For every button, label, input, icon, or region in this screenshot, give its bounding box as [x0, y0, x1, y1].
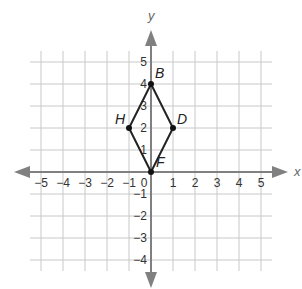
vertex-point-f — [148, 169, 154, 175]
vertex-point-b — [148, 81, 154, 87]
x-tick-labels: −5−4−3−2−1012345 — [34, 176, 265, 190]
y-axis-label: y — [147, 8, 156, 23]
vertex-label-d: D — [177, 111, 187, 127]
y-tick-label: −4 — [133, 253, 147, 267]
y-tick-label: 5 — [140, 55, 147, 69]
vertex-label-h: H — [115, 111, 126, 127]
x-tick-label: 3 — [214, 176, 221, 190]
y-tick-label: −2 — [133, 209, 147, 223]
vertex-label-b: B — [155, 65, 164, 81]
x-tick-label: −5 — [34, 176, 48, 190]
y-tick-label: −1 — [133, 187, 147, 201]
x-tick-label: −4 — [56, 176, 70, 190]
x-tick-label: 4 — [236, 176, 243, 190]
x-tick-label: 2 — [192, 176, 199, 190]
x-axis-right-arrow-icon — [272, 166, 288, 178]
x-tick-label: 1 — [170, 176, 177, 190]
x-tick-label: −3 — [78, 176, 92, 190]
x-tick-label: 5 — [258, 176, 265, 190]
vertex-point-d — [170, 125, 176, 131]
y-tick-label: −3 — [133, 231, 147, 245]
y-tick-label: 2 — [140, 121, 147, 135]
y-axis-down-arrow-icon — [145, 272, 157, 288]
x-axis-left-arrow-icon — [14, 166, 30, 178]
vertex-point-h — [126, 125, 132, 131]
vertex-label-f: F — [156, 154, 166, 170]
coordinate-plane: x y −5−4−3−2−1012345 54321−1−2−3−4 BDFH — [0, 0, 302, 289]
x-axis-label: x — [293, 164, 301, 179]
y-tick-label: 4 — [140, 77, 147, 91]
x-tick-label: −2 — [100, 176, 114, 190]
y-axis-up-arrow-icon — [145, 30, 157, 46]
